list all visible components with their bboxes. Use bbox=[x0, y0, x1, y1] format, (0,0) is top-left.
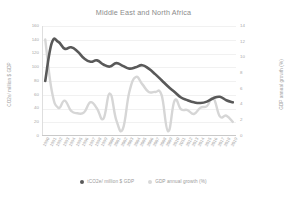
y-axis-left-tick-label: 0 bbox=[37, 134, 39, 138]
chart-title: Middle East and North Africa bbox=[0, 8, 287, 17]
y-axis-right-tick-label: 0 bbox=[240, 134, 242, 138]
y-axis-right-tick-label: 10 bbox=[240, 55, 245, 59]
y-axis-left-title: CO2e/ million $ GDP bbox=[7, 54, 12, 116]
y-axis-left-tick-label: 80 bbox=[34, 79, 39, 83]
x-axis-tick-label: 2019 bbox=[230, 137, 238, 147]
y-axis-left-tick-label: 160 bbox=[32, 24, 39, 28]
series-line bbox=[45, 39, 233, 131]
y-axis-right-tick-label: 2 bbox=[240, 118, 242, 122]
y-axis-left-tick-label: 120 bbox=[32, 51, 39, 55]
y-axis-right-tick-label: 14 bbox=[240, 24, 245, 28]
y-axis-left-tick-label: 60 bbox=[34, 93, 39, 97]
series-line bbox=[45, 39, 233, 103]
chart-container: Middle East and North Africa CO2e/ milli… bbox=[0, 0, 287, 201]
legend-marker-dot-icon bbox=[148, 180, 152, 184]
series-lines bbox=[42, 26, 236, 136]
plot-area: 020406080100120140160 02468101214 bbox=[42, 26, 236, 136]
chart-legend: tCO2e/ million $ GDPGDP annual growth (%… bbox=[0, 179, 287, 184]
y-axis-right-tick-label: 12 bbox=[240, 40, 245, 44]
legend-label: GDP annual growth (%) bbox=[155, 179, 207, 184]
y-axis-left-tick-label: 140 bbox=[32, 38, 39, 42]
legend-item[interactable]: GDP annual growth (%) bbox=[148, 179, 207, 184]
legend-marker-dot-icon bbox=[80, 180, 84, 184]
y-axis-left-tick-label: 100 bbox=[32, 65, 39, 69]
y-axis-left-tick-label: 20 bbox=[34, 120, 39, 124]
y-axis-left-tick-label: 40 bbox=[34, 106, 39, 110]
y-axis-right-tick-label: 6 bbox=[240, 87, 242, 91]
y-axis-right-tick-label: 8 bbox=[240, 71, 242, 75]
y-axis-right-title: GDP annual growth (%) bbox=[279, 50, 284, 120]
x-axis-ticks: 1990199119921993199419951996199719981999… bbox=[42, 137, 236, 171]
y-axis-right-tick-label: 4 bbox=[240, 102, 242, 106]
legend-item[interactable]: tCO2e/ million $ GDP bbox=[80, 179, 134, 184]
legend-label: tCO2e/ million $ GDP bbox=[87, 179, 134, 184]
